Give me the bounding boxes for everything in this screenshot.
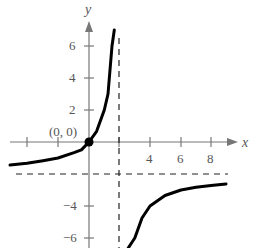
x-axis-arrow-icon — [227, 138, 238, 146]
y-axis-arrow-icon — [85, 21, 93, 32]
y-tick-label-neg4: −4 — [63, 198, 77, 213]
y-tick-label-2: 2 — [69, 102, 76, 117]
y-tick-label-6: 6 — [69, 38, 76, 53]
graph-container: y x 6 4 2 −4 −6 4 6 8 (0, 0) — [0, 0, 254, 248]
x-tick-label-4: 4 — [146, 151, 153, 166]
left-branch-curve — [10, 30, 114, 165]
x-tick-label-8: 8 — [207, 151, 214, 166]
hyperbola-graph: y x 6 4 2 −4 −6 4 6 8 (0, 0) — [0, 0, 254, 248]
y-tick-label-4: 4 — [69, 70, 76, 85]
right-branch-curve — [128, 184, 226, 248]
x-tick-label-6: 6 — [177, 151, 184, 166]
y-axis-label: y — [83, 2, 92, 17]
x-axis-label: x — [241, 135, 249, 150]
origin-point — [85, 138, 94, 147]
y-tick-label-neg6: −6 — [63, 230, 77, 245]
origin-point-label: (0, 0) — [49, 124, 77, 139]
